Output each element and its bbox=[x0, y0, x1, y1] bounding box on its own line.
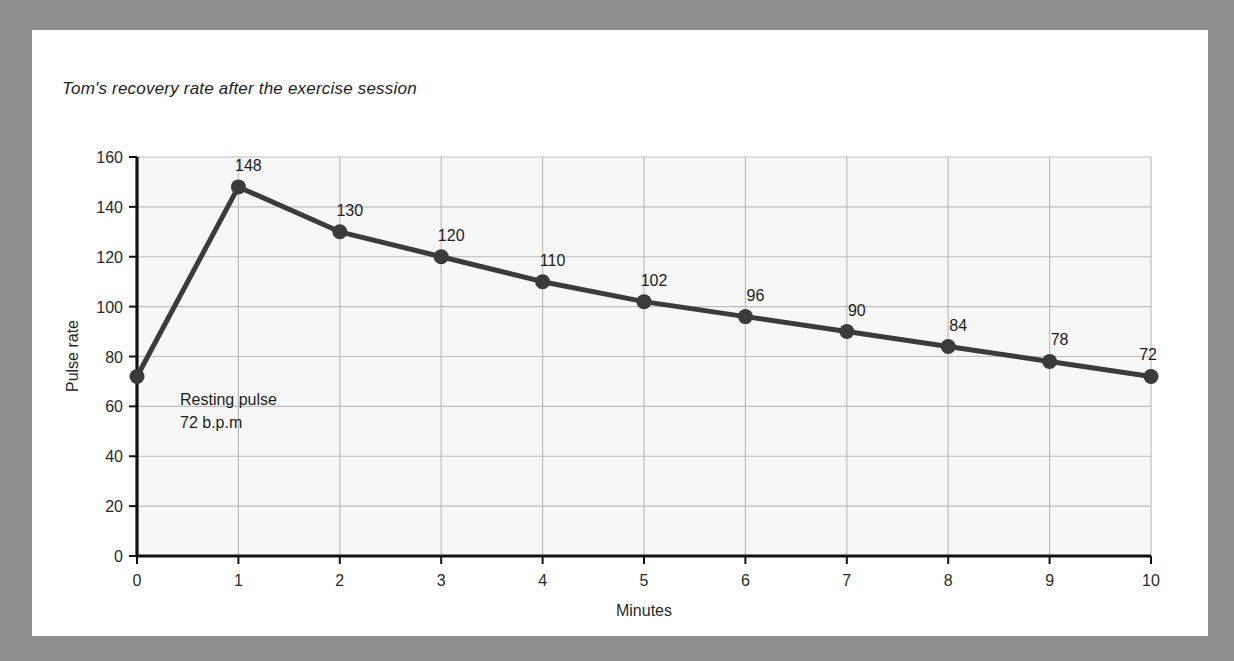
data-point bbox=[637, 294, 652, 309]
data-point-label: 130 bbox=[336, 202, 363, 219]
y-axis-tick-label: 160 bbox=[96, 149, 123, 166]
data-point bbox=[941, 339, 956, 354]
data-point bbox=[738, 309, 753, 324]
x-axis-tick-label: 6 bbox=[741, 572, 750, 589]
x-axis-tick-label: 5 bbox=[640, 572, 649, 589]
x-axis-tick-labels: 012345678910 bbox=[133, 572, 1160, 589]
y-axis-tick-label: 100 bbox=[96, 299, 123, 316]
data-point-label: 148 bbox=[235, 157, 262, 174]
data-point bbox=[1042, 354, 1057, 369]
data-point-label: 96 bbox=[747, 287, 765, 304]
data-point-label: 72 bbox=[1139, 346, 1157, 363]
annotation-line-1: Resting pulse bbox=[180, 391, 277, 408]
data-point bbox=[231, 179, 246, 194]
chart-sheet: Tom's recovery rate after the exercise s… bbox=[32, 30, 1208, 636]
y-axis-tick-label: 0 bbox=[114, 548, 123, 565]
data-point-label: 110 bbox=[540, 252, 566, 269]
y-axis-tick-label: 60 bbox=[105, 398, 123, 415]
line-chart: 020406080100120140160 012345678910 Minut… bbox=[32, 30, 1208, 636]
y-axis-tick-labels: 020406080100120140160 bbox=[96, 149, 123, 565]
x-axis-tick-label: 2 bbox=[335, 572, 344, 589]
y-axis-tick-label: 80 bbox=[105, 349, 123, 366]
x-axis-title: Minutes bbox=[616, 602, 672, 619]
x-axis-tick-label: 7 bbox=[842, 572, 851, 589]
x-axis-tick-label: 0 bbox=[133, 572, 142, 589]
x-axis-tick-label: 10 bbox=[1142, 572, 1160, 589]
data-point bbox=[434, 249, 449, 264]
data-point-label: 78 bbox=[1051, 331, 1069, 348]
data-point-label: 102 bbox=[641, 272, 668, 289]
data-point-label: 120 bbox=[438, 227, 465, 244]
x-axis-tick-label: 1 bbox=[234, 572, 243, 589]
y-axis-tick-label: 120 bbox=[96, 249, 123, 266]
x-axis-tick-label: 4 bbox=[538, 572, 547, 589]
x-axis-tick-label: 9 bbox=[1045, 572, 1054, 589]
data-point-label: 84 bbox=[949, 317, 967, 334]
chart-plot-container: 020406080100120140160 012345678910 Minut… bbox=[32, 30, 1208, 636]
data-point-label: 90 bbox=[848, 302, 866, 319]
data-point bbox=[130, 369, 145, 384]
x-axis-tick-label: 3 bbox=[437, 572, 446, 589]
data-point bbox=[839, 324, 854, 339]
y-axis-tick-label: 20 bbox=[105, 498, 123, 515]
y-axis-title: Pulse rate bbox=[64, 320, 81, 392]
x-axis-tick-label: 8 bbox=[944, 572, 953, 589]
y-axis-tick-label: 40 bbox=[105, 448, 123, 465]
data-point bbox=[535, 274, 550, 289]
annotation-line-2: 72 b.p.m bbox=[180, 414, 242, 431]
y-axis-tick-label: 140 bbox=[96, 199, 123, 216]
data-point bbox=[1144, 369, 1159, 384]
data-point bbox=[332, 224, 347, 239]
